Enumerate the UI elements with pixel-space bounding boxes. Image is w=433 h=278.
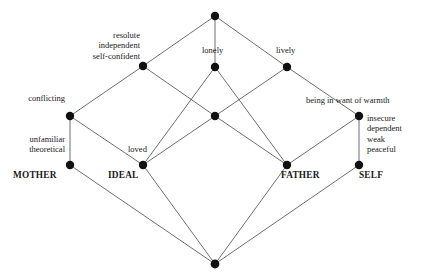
lattice-edge	[70, 116, 143, 165]
label-dependent: dependent	[367, 123, 402, 133]
lattice-node-n_warmth[interactable]	[355, 112, 363, 120]
lattice-node-n_lonely[interactable]	[211, 63, 219, 71]
label-resolute: resolute	[58, 30, 140, 40]
lattice-edge	[70, 165, 215, 264]
lattice-edge	[143, 66, 215, 116]
lattice-node-n_ideal[interactable]	[139, 161, 147, 169]
lattice-node-n_center[interactable]	[211, 112, 219, 120]
lattice-edge	[215, 116, 287, 165]
label-theoretical: theoretical	[3, 144, 65, 154]
lattice-edge	[70, 66, 143, 116]
label-insecure-group: insecure dependent weak peaceful	[367, 113, 402, 155]
lattice-edge	[215, 16, 287, 67]
lattice-edge	[143, 16, 215, 66]
lattice-node-n_resolute[interactable]	[139, 62, 147, 70]
lattice-node-bottom[interactable]	[211, 260, 220, 269]
label-lively: lively	[276, 45, 295, 55]
label-being-in-want-of-warmth: being in want of warmth	[306, 95, 390, 105]
lattice-edge	[215, 67, 287, 116]
lattice-node-n_conflicting[interactable]	[66, 112, 74, 120]
lattice-node-n_lively[interactable]	[283, 63, 291, 71]
label-mother: MOTHER	[13, 170, 57, 180]
lattice-node-top[interactable]	[211, 12, 219, 20]
lattice-edge	[143, 116, 215, 165]
lattice-edge	[143, 67, 215, 165]
label-insecure: insecure	[367, 113, 402, 123]
lattice-edge	[287, 116, 359, 165]
lattice-edge	[215, 165, 287, 264]
label-father: FATHER	[281, 170, 320, 180]
label-ideal: IDEAL	[108, 170, 138, 180]
lattice-node-n_mother[interactable]	[66, 161, 74, 169]
label-lonely: lonely	[202, 45, 223, 55]
label-unfamiliar-group: unfamiliar theoretical	[3, 134, 65, 155]
label-peaceful: peaceful	[367, 144, 402, 154]
label-conflicting: conflicting	[3, 93, 65, 103]
label-self-confident: self-confident	[58, 51, 140, 61]
lattice-diagram: resolute independent self-confident lone…	[0, 0, 433, 278]
label-unfamiliar: unfamiliar	[3, 134, 65, 144]
lattice-edge	[287, 67, 359, 116]
lattice-node-n_self[interactable]	[355, 161, 363, 169]
label-loved: loved	[128, 144, 147, 154]
label-weak: weak	[367, 134, 402, 144]
label-self: SELF	[359, 170, 383, 180]
label-independent: independent	[58, 40, 140, 50]
lattice-edge	[143, 165, 215, 264]
label-resolute-group: resolute independent self-confident	[58, 30, 140, 61]
lattice-node-n_father[interactable]	[283, 161, 291, 169]
lattice-edge	[215, 67, 287, 165]
